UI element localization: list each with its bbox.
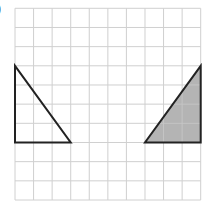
grid-diagram: [0, 0, 207, 208]
